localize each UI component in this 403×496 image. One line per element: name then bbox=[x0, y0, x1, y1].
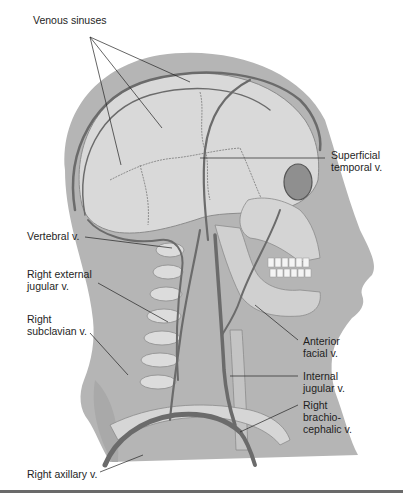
label-vertebral-v: Vertebral v. bbox=[27, 230, 79, 242]
label-right-subclavian-v: Right subclavian v. bbox=[27, 313, 87, 337]
bottom-rule bbox=[0, 490, 403, 493]
label-right-brachiocephalic-v: Right brachio- cephalic v. bbox=[303, 399, 352, 435]
label-right-external-jugular-v: Right external jugular v. bbox=[27, 268, 92, 292]
label-superficial-temporal-v: Superficial temporal v. bbox=[331, 149, 382, 173]
label-venous-sinuses: Venous sinuses bbox=[33, 14, 107, 26]
label-anterior-facial-v: Anterior facial v. bbox=[303, 335, 340, 359]
label-internal-jugular-v: Internal jugular v. bbox=[303, 370, 345, 394]
label-right-axillary-v: Right axillary v. bbox=[27, 468, 97, 480]
orbit bbox=[284, 164, 312, 200]
anatomy-figure: Venous sinuses Superficial temporal v. V… bbox=[0, 0, 403, 496]
